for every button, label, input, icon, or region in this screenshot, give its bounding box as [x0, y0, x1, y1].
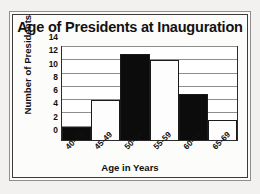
y-axis-title: Number of Presidents [22, 19, 33, 115]
bar-slot-50-54 [120, 47, 149, 140]
y-tick-label-4: 4 [53, 98, 58, 108]
bar-55-59 [150, 60, 179, 140]
y-tick-label-2: 2 [53, 112, 58, 122]
y-tick-label-14: 14 [49, 32, 58, 42]
chart-figure-inner-border: Age of Presidents at Inauguration Number… [12, 14, 248, 178]
bar-slot-40-44 [62, 47, 91, 140]
bar-slot-65-69 [208, 47, 237, 140]
bars-group [62, 47, 237, 140]
bar-50-54 [120, 54, 149, 140]
y-tick-label-0: 0 [53, 125, 58, 135]
y-tick-label-10: 10 [49, 59, 58, 69]
y-tick-label-12: 12 [49, 45, 58, 55]
bar-slot-45-49 [91, 47, 120, 140]
y-tick-label-8: 8 [53, 72, 58, 82]
y-tick-label-6: 6 [53, 85, 58, 95]
plot-area: 02468101214 [61, 46, 238, 141]
bar-slot-60-64 [179, 47, 208, 140]
x-axis-title: Age in Years [13, 162, 247, 173]
bar-slot-55-59 [150, 47, 179, 140]
chart-figure-frame: Age of Presidents at Inauguration Number… [9, 11, 251, 181]
